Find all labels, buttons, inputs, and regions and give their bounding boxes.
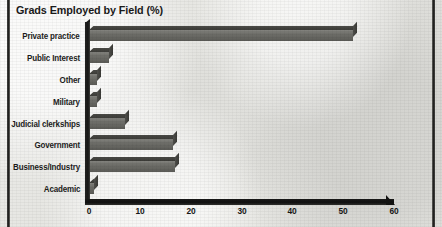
category-label: Judicial clerkships [11,119,80,129]
bar-chart: Grads Employed by Field (%) Private prac… [0,0,442,227]
bar-end-cap [94,175,98,190]
bar [89,161,175,172]
bar-end-cap [97,87,101,102]
bar [89,118,125,129]
bar-end-cap [109,44,113,59]
bar [89,139,173,150]
bar [89,30,353,41]
bar-end-cap [173,131,177,146]
category-label: Other [59,75,80,85]
figure-right-border [432,0,435,227]
bar-row [89,48,394,70]
category-label: Government [34,140,80,150]
bar-row [89,157,394,179]
value-tick-label: 10 [135,206,144,216]
value-tick-label: 30 [237,206,246,216]
value-tick-label: 40 [288,206,297,216]
category-axis-labels: Private practicePublic InterestOtherMili… [0,25,80,200]
chart-title: Grads Employed by Field (%) [16,4,163,16]
category-axis [85,22,90,203]
value-tick-label: 20 [186,206,195,216]
bar-row [89,135,394,157]
category-label: Military [53,97,80,107]
value-axis-arrow [386,195,395,205]
value-axis-ticks: 0102030405060 [0,206,442,220]
category-label: Business/Industry [13,162,80,172]
bar-row [89,114,394,136]
plot-area [89,25,394,200]
bar-row [89,179,394,201]
value-tick-label: 50 [339,206,348,216]
bar-end-cap [97,66,101,81]
category-label: Public Interest [27,53,80,63]
value-axis [85,199,394,205]
bar-row [89,26,394,48]
category-label: Academic [43,184,80,194]
category-label: Private practice [23,31,80,41]
bar [89,52,109,63]
bar-row [89,92,394,114]
bar-row [89,70,394,92]
bar [89,96,97,107]
bar [89,74,97,85]
bar-end-cap [353,22,357,37]
value-tick-label: 0 [87,206,92,216]
chart-figure: Grads Employed by Field (%) Private prac… [0,0,442,227]
figure-left-border [7,0,10,227]
value-tick-label: 60 [389,206,398,216]
bar-end-cap [175,153,179,168]
